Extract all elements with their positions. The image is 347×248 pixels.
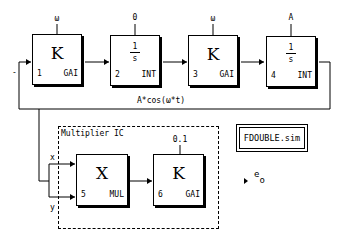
block-4-transfer-fn: 1 s	[267, 43, 315, 64]
block-2-transfer-fn: 1 s	[111, 42, 159, 63]
block-2-numerator: 1	[111, 42, 159, 51]
block-2-integrator[interactable]: 1 s 2 INT	[110, 35, 160, 86]
multiplier-ic-label: Multiplier IC	[61, 129, 124, 138]
signal-label: A*cos(ω*t)	[137, 96, 185, 105]
block-3-param: ω	[203, 14, 223, 23]
block-4-type: INT	[298, 71, 312, 80]
block-1-param: ω	[47, 14, 67, 23]
block-5-symbol: X	[77, 165, 127, 182]
block-6-gain[interactable]: K 6 GAI	[153, 154, 204, 206]
feedback-minus-sign: -	[12, 68, 17, 77]
fraction-bar	[130, 52, 140, 53]
block-3-type: GAI	[220, 70, 234, 79]
block-3-symbol: K	[189, 46, 237, 63]
input-y-label: y	[50, 203, 55, 212]
block-5-type: MUL	[110, 190, 124, 199]
output-port-icon[interactable]	[244, 178, 248, 184]
block-2-index: 2	[115, 70, 120, 79]
block-2-type: INT	[142, 70, 156, 79]
block-2-param: 0	[125, 13, 145, 22]
input-x-label: x	[50, 153, 55, 162]
fraction-bar	[286, 53, 296, 54]
block-6-type: GAI	[186, 190, 200, 199]
block-6-symbol: K	[154, 165, 203, 182]
block-6-index: 6	[158, 190, 163, 199]
block-2-denominator: s	[111, 54, 159, 63]
sim-file-title-box: FDOUBLE.sim	[236, 124, 308, 152]
block-4-denominator: s	[267, 55, 315, 64]
output-label-subscript: o	[259, 175, 264, 185]
block-4-index: 4	[271, 71, 276, 80]
block-4-param: A	[281, 13, 301, 22]
block-1-symbol: K	[33, 45, 81, 62]
block-5-index: 5	[81, 190, 86, 199]
block-4-numerator: 1	[267, 43, 315, 52]
block-1-gain[interactable]: K 1 GAI	[32, 34, 82, 85]
block-5-multiplier[interactable]: X 5 MUL	[76, 154, 128, 206]
block-4-integrator[interactable]: 1 s 4 INT	[266, 36, 316, 87]
block-1-type: GAI	[64, 69, 78, 78]
sim-file-name: FDOUBLE.sim	[239, 127, 305, 149]
block-diagram-canvas: ω 0 ω A 0.1 K 1 GAI 1 s 2 INT K 3 GAI 1 …	[0, 0, 347, 248]
block-1-index: 1	[37, 69, 42, 78]
output-label: eo	[254, 170, 265, 182]
block-3-gain[interactable]: K 3 GAI	[188, 35, 238, 86]
block-3-index: 3	[193, 70, 198, 79]
